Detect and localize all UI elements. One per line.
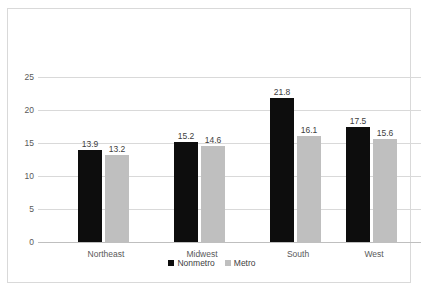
y-tick-label-10: 10 [4, 172, 34, 181]
y-axis: 25 20 15 10 5 0 [8, 77, 34, 242]
y-tick-label-25: 25 [4, 73, 34, 82]
legend-label-nonmetro: Nonmetro [177, 258, 214, 268]
bar-northeast-nonmetro[interactable]: 13.9 [78, 150, 102, 242]
chart-legend: Nonmetro Metro [0, 258, 424, 268]
bar-west-nonmetro[interactable]: 17.5 [346, 127, 370, 243]
legend-item-nonmetro[interactable]: Nonmetro [168, 258, 214, 268]
gridline-0 [38, 242, 421, 243]
chart-frame: 25 20 15 10 5 0 13.9 13.2 Northeast 15.2 [7, 8, 411, 283]
bar-value-south-metro: 16.1 [301, 125, 318, 134]
bar-south-nonmetro[interactable]: 21.8 [270, 98, 294, 242]
bar-value-midwest-nonmetro: 15.2 [178, 131, 195, 140]
bar-value-west-metro: 15.6 [377, 129, 394, 138]
bar-northeast-metro[interactable]: 13.2 [105, 155, 129, 242]
bar-midwest-nonmetro[interactable]: 15.2 [174, 142, 198, 242]
legend-label-metro: Metro [234, 258, 256, 268]
bar-value-northeast-nonmetro: 13.9 [82, 140, 99, 149]
y-tick-label-5: 5 [4, 205, 34, 214]
bar-value-midwest-metro: 14.6 [205, 135, 222, 144]
bar-value-northeast-metro: 13.2 [109, 144, 126, 153]
bar-west-metro[interactable]: 15.6 [373, 139, 397, 242]
bar-value-south-nonmetro: 21.8 [274, 88, 291, 97]
y-tick-label-15: 15 [4, 139, 34, 148]
bar-group-west: 17.5 15.6 West [326, 77, 422, 242]
plot-area: 13.9 13.2 Northeast 15.2 14.6 Midwest 21… [38, 77, 421, 242]
y-tick-label-0: 0 [4, 238, 34, 247]
y-tick-label-20: 20 [4, 106, 34, 115]
bar-midwest-metro[interactable]: 14.6 [201, 146, 225, 242]
bar-south-metro[interactable]: 16.1 [297, 136, 321, 242]
legend-swatch-metro [225, 260, 231, 266]
bar-group-northeast: 13.9 13.2 Northeast [58, 77, 154, 242]
bar-value-west-nonmetro: 17.5 [350, 116, 367, 125]
legend-swatch-nonmetro [168, 260, 174, 266]
bar-group-midwest: 15.2 14.6 Midwest [154, 77, 250, 242]
legend-item-metro[interactable]: Metro [225, 258, 256, 268]
